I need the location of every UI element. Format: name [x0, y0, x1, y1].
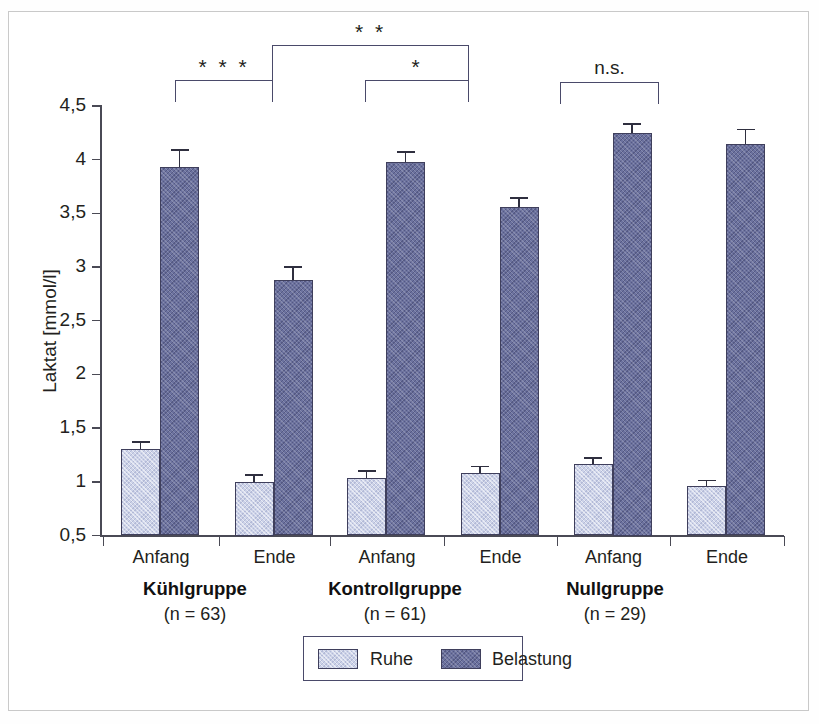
legend-label-ruhe: Ruhe: [370, 649, 413, 669]
bar-belastung-0: [160, 167, 199, 535]
legend: Ruhe Belastung: [303, 636, 523, 681]
error-cap-belastung-2: [397, 151, 415, 153]
y-tick-label-wrap-2: 3,5: [0, 202, 86, 221]
x-axis-line: [100, 535, 784, 537]
error-cap-ruhe-1: [245, 474, 263, 476]
y-tick-4: [92, 320, 100, 321]
x-tick-1: [219, 536, 220, 546]
error-stem-belastung-5: [745, 129, 747, 144]
y-tick-label-wrap-7: 1: [0, 471, 86, 490]
error-cap-ruhe-0: [132, 441, 150, 443]
x-category-label-5: Ende: [667, 547, 787, 568]
y-tick-0: [92, 105, 100, 106]
group-n-nullgruppe: (n = 29): [520, 604, 710, 625]
significance-bracket-3: [365, 80, 469, 102]
x-tick-0: [103, 536, 104, 546]
x-category-label-4: Anfang: [554, 547, 674, 568]
error-cap-ruhe-4: [584, 457, 602, 459]
bar-ruhe-4: [574, 464, 613, 536]
x-tick-6: [784, 536, 785, 546]
significance-label-2: * *: [272, 20, 469, 44]
error-cap-ruhe-2: [358, 470, 376, 472]
y-tick-label-wrap-0: 4,5: [0, 95, 86, 114]
error-cap-ruhe-5: [698, 480, 716, 482]
error-cap-belastung-1: [284, 266, 302, 268]
group-n-kontrollgruppe: (n = 61): [300, 604, 490, 625]
x-tick-2: [330, 536, 331, 546]
x-category-label-0: Anfang: [101, 547, 221, 568]
x-tick-4: [557, 536, 558, 546]
y-tick-label-7: 1: [0, 471, 86, 490]
significance-label-3: *: [365, 55, 469, 79]
group-name-kontrollgruppe: Kontrollgruppe: [300, 578, 490, 600]
x-category-label-1: Ende: [215, 547, 335, 568]
y-tick-label-wrap-3: 3: [0, 256, 86, 275]
x-category-label-2: Anfang: [327, 547, 447, 568]
y-tick-label-2: 3,5: [0, 202, 86, 221]
error-cap-belastung-3: [510, 197, 528, 199]
significance-label-1: * * *: [175, 55, 273, 79]
group-name-nullgruppe: Nullgruppe: [520, 578, 710, 600]
y-tick-label-wrap-6: 1,5: [0, 417, 86, 436]
x-category-label-3: Ende: [441, 547, 561, 568]
y-tick-label-wrap-8: 0,5: [0, 525, 86, 544]
y-tick-2: [92, 213, 100, 214]
bar-ruhe-3: [461, 473, 500, 535]
plot-area: Laktat [mmol/l] 4,543,532,521,510,5 * * …: [0, 0, 819, 724]
legend-swatch-belastung: [441, 649, 481, 669]
legend-swatch-ruhe: [318, 649, 358, 669]
y-tick-label-3: 3: [0, 256, 86, 275]
y-axis-line: [100, 105, 102, 536]
y-tick-5: [92, 374, 100, 375]
bar-ruhe-2: [347, 478, 386, 536]
error-stem-belastung-2: [405, 151, 407, 162]
bar-ruhe-5: [687, 486, 726, 535]
error-stem-belastung-1: [292, 266, 294, 280]
y-tick-8: [92, 535, 100, 536]
y-tick-label-6: 1,5: [0, 417, 86, 436]
x-tick-5: [670, 536, 671, 546]
bar-belastung-1: [274, 280, 313, 536]
group-name-kuehlgruppe: Kühlgruppe: [110, 578, 280, 600]
y-tick-label-8: 0,5: [0, 525, 86, 544]
bar-belastung-3: [500, 207, 539, 536]
bar-belastung-4: [613, 133, 652, 536]
chart-page: Laktat [mmol/l] 4,543,532,521,510,5 * * …: [0, 0, 819, 724]
y-tick-label-wrap-1: 4: [0, 149, 86, 168]
x-tick-3: [444, 536, 445, 546]
y-tick-label-0: 4,5: [0, 95, 86, 114]
bar-belastung-2: [386, 162, 425, 536]
y-tick-label-5: 2: [0, 363, 86, 382]
error-cap-belastung-0: [171, 149, 189, 151]
group-n-kuehlgruppe: (n = 63): [110, 604, 280, 625]
significance-label-4: n.s.: [560, 57, 659, 79]
error-stem-belastung-0: [179, 149, 181, 167]
error-cap-belastung-4: [623, 123, 641, 125]
y-tick-6: [92, 427, 100, 428]
significance-bracket-1: [175, 80, 273, 102]
y-tick-7: [92, 481, 100, 482]
error-cap-ruhe-3: [471, 466, 489, 468]
significance-bracket-4: [560, 82, 659, 104]
bar-ruhe-0: [121, 449, 160, 536]
bar-ruhe-1: [235, 482, 274, 536]
y-tick-label-wrap-5: 2: [0, 363, 86, 382]
legend-label-belastung: Belastung: [492, 649, 572, 669]
bar-belastung-5: [726, 144, 765, 536]
y-tick-1: [92, 159, 100, 160]
error-cap-belastung-5: [737, 129, 755, 131]
y-tick-3: [92, 266, 100, 267]
y-tick-label-4: 2,5: [0, 310, 86, 329]
y-tick-label-wrap-4: 2,5: [0, 310, 86, 329]
y-tick-label-1: 4: [0, 149, 86, 168]
